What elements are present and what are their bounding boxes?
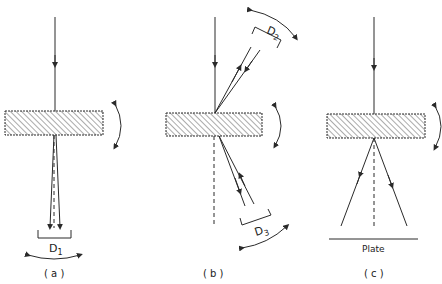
ray-arrow-icon (388, 175, 392, 186)
rotation-arrow-icon (435, 106, 441, 148)
rotation-arrow-icon (275, 106, 281, 146)
panel-c-caption: ( c ) (364, 268, 384, 279)
transmitted-ray-a2 (56, 135, 60, 227)
detector-d3-label: D3 (253, 222, 271, 240)
panel-a-caption: ( a ) (44, 268, 64, 279)
ray-arrow-icon (240, 175, 245, 186)
reflected-ray-b2 (215, 50, 260, 113)
transmitted-ray-a1 (50, 135, 54, 227)
plate-label: Plate (362, 244, 385, 254)
crystal-plate-b (166, 113, 262, 136)
panel-c: Plate ( c ) (327, 17, 441, 279)
panel-b-caption: ( b ) (203, 268, 224, 279)
detector-d3 (240, 209, 271, 225)
crystal-plate-c (327, 114, 425, 138)
diffraction-geometry-diagram: D1 ( a ) D2 D3 ( b ) (0, 0, 442, 284)
crystal-plate-a (5, 111, 103, 135)
transmitted-ray-b1 (219, 136, 245, 206)
detector-d1 (38, 230, 71, 238)
panel-b: D2 D3 ( b ) (166, 10, 296, 279)
ray-arrow-icon (357, 175, 360, 184)
detector-scan-arrow-icon (28, 255, 80, 259)
detector-d2-label: D2 (264, 24, 282, 43)
transmitted-ray-b2 (219, 136, 254, 204)
rotation-arrow-icon (115, 104, 121, 147)
ray-arrow-icon (235, 178, 240, 192)
panel-a: D1 ( a ) (5, 17, 121, 279)
detector-d1-label: D1 (49, 242, 63, 257)
ray-arrow-icon (246, 61, 252, 70)
